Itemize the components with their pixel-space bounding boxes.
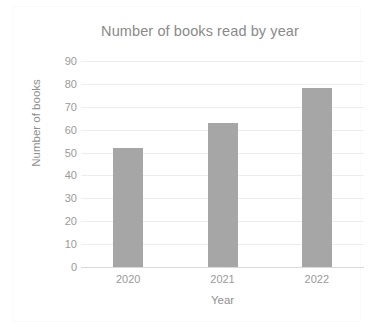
axis-baseline bbox=[81, 267, 364, 268]
y-axis-tick-label: 90 bbox=[65, 55, 77, 67]
bar bbox=[208, 123, 238, 267]
y-axis-tick-label: 0 bbox=[71, 261, 77, 273]
x-axis-tick-labels: 202020212022 bbox=[81, 273, 364, 289]
y-axis-title: Number of books bbox=[30, 73, 42, 173]
y-axis-tick-label: 80 bbox=[65, 78, 77, 90]
y-axis-tick-label: 40 bbox=[65, 169, 77, 181]
gridline bbox=[81, 61, 364, 62]
y-axis-tick-label: 20 bbox=[65, 215, 77, 227]
y-axis-tick-label: 30 bbox=[65, 192, 77, 204]
x-axis-tick-label: 2020 bbox=[116, 273, 140, 285]
y-axis-tick-label: 10 bbox=[65, 238, 77, 250]
bar bbox=[113, 148, 143, 267]
y-axis-tick-label: 50 bbox=[65, 147, 77, 159]
plot-area bbox=[81, 61, 364, 267]
gridline bbox=[81, 84, 364, 85]
y-axis-tick-labels: 0102030405060708090 bbox=[51, 61, 77, 267]
x-axis-tick-label: 2021 bbox=[210, 273, 234, 285]
x-axis-tick-label: 2022 bbox=[305, 273, 329, 285]
chart-frame: Number of books read by year Number of b… bbox=[13, 6, 361, 322]
y-axis-tick-label: 60 bbox=[65, 124, 77, 136]
bar bbox=[302, 88, 332, 267]
x-axis-title: Year bbox=[81, 294, 364, 306]
y-axis-tick-label: 70 bbox=[65, 101, 77, 113]
chart-title: Number of books read by year bbox=[14, 23, 372, 39]
